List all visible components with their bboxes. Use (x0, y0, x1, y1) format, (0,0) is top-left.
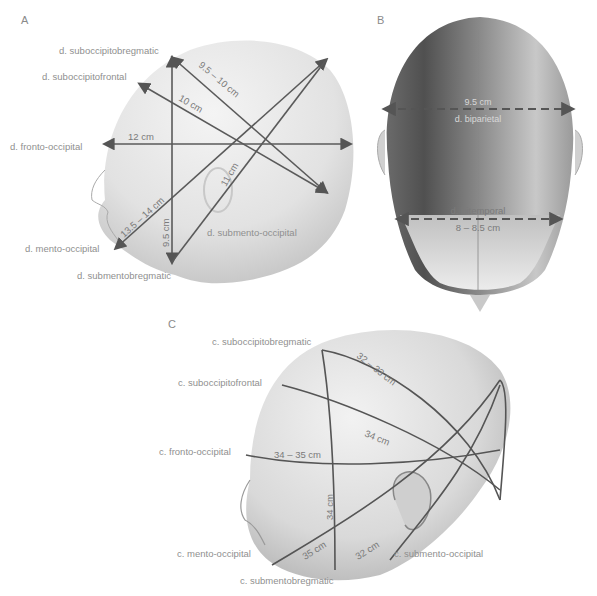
label-a-mento-occipital: d. mento-occipital (25, 243, 99, 254)
label-a-fronto-occipital: d. fronto-occipital (10, 141, 82, 152)
label-a-suboccipitobregmatic: d. suboccipitobregmatic (59, 45, 159, 56)
svg-text:34 cm: 34 cm (324, 494, 335, 520)
svg-text:9.5 cm: 9.5 cm (160, 218, 171, 247)
label-a-suboccipitofrontal: d. suboccipitofrontal (42, 71, 127, 82)
svg-text:12 cm: 12 cm (128, 131, 154, 142)
panel-letter-a: A (21, 14, 28, 26)
label-c-submento-occipital: c. submento-occipital (394, 548, 483, 559)
panel-letter-c: C (168, 318, 176, 330)
panel-letter-b: B (377, 14, 384, 26)
label-c-suboccipitobregmatic: c. suboccipitobregmatic (212, 336, 311, 347)
label-c-mento-occipital: c. mento-occipital (177, 548, 251, 559)
svg-text:34 – 35 cm: 34 – 35 cm (274, 449, 321, 460)
head-back-view-b (378, 17, 583, 312)
diagram-canvas: 9.5 – 10 cm 10 cm 12 cm 13.5 – 14 cm 9.5… (0, 0, 597, 596)
svg-text:d. biparietal: d. biparietal (455, 114, 502, 124)
label-a-submento-occipital: d. submento-occipital (207, 227, 297, 238)
label-c-fronto-occipital: c. fronto-occipital (159, 446, 231, 457)
label-a-submentobregmatic: d. submentobregmatic (77, 270, 171, 281)
label-c-suboccipitofrontal: c. suboccipitofrontal (178, 377, 262, 388)
svg-text:d. bitemporal: d. bitemporal (451, 205, 506, 216)
label-c-submentobregmatic: c. submentobregmatic (240, 575, 333, 586)
svg-text:8 – 8.5 cm: 8 – 8.5 cm (456, 222, 500, 233)
svg-text:9.5 cm: 9.5 cm (464, 97, 491, 107)
